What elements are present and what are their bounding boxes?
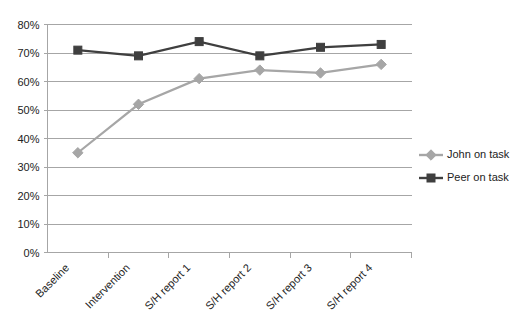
- gridlines: [44, 25, 412, 253]
- y-axis-tick-label: 70%: [17, 47, 39, 59]
- x-axis-tick-label: S/H report 2: [203, 261, 253, 311]
- x-axis-tick-label: Intervention: [83, 261, 132, 310]
- data-series-group: [73, 38, 387, 158]
- x-axis-tick-labels: BaselineInterventionS/H report 1S/H repo…: [33, 261, 375, 311]
- data-point-marker-diamond: [194, 73, 204, 83]
- y-axis-tick-label: 50%: [17, 104, 39, 116]
- data-point-marker-square: [317, 43, 325, 51]
- legend-label: John on task: [447, 148, 510, 160]
- chart-container: 0%10%20%30%40%50%60%70%80% BaselineInter…: [0, 0, 529, 325]
- data-point-marker-diamond: [255, 65, 265, 75]
- x-axis: [48, 25, 412, 258]
- data-point-marker-diamond: [315, 68, 325, 78]
- y-axis-tick-label: 30%: [17, 161, 39, 173]
- y-axis-tick-label: 40%: [17, 133, 39, 145]
- y-axis-tick-label: 10%: [17, 218, 39, 230]
- x-axis-tick-label: S/H report 4: [324, 261, 374, 311]
- y-axis-tick-label: 0%: [24, 247, 40, 259]
- data-point-marker-square: [74, 46, 82, 54]
- y-axis-tick-label: 60%: [17, 76, 39, 88]
- series-line: [78, 64, 381, 152]
- legend-entry[interactable]: John on task: [419, 148, 510, 160]
- data-point-marker-square: [135, 52, 143, 60]
- chart-legend: John on taskPeer on task: [419, 148, 510, 183]
- legend-label: Peer on task: [447, 171, 509, 183]
- y-axis-tick-labels: 0%10%20%30%40%50%60%70%80%: [17, 19, 39, 259]
- x-axis-tick-label: S/H report 3: [263, 261, 313, 311]
- y-axis-tick-label: 20%: [17, 190, 39, 202]
- data-point-marker-square: [377, 40, 385, 48]
- series-line: [78, 42, 381, 56]
- x-axis-tick-label: S/H report 1: [142, 261, 192, 311]
- data-point-marker-square: [195, 38, 203, 46]
- data-point-marker-square: [427, 174, 435, 182]
- x-axis-tick-label: Baseline: [33, 261, 71, 299]
- data-point-marker-diamond: [426, 150, 436, 160]
- series-peer-on-task: [74, 38, 385, 60]
- series-john-on-task: [73, 59, 387, 158]
- y-axis-tick-label: 80%: [17, 19, 39, 31]
- line-chart: 0%10%20%30%40%50%60%70%80% BaselineInter…: [0, 0, 529, 325]
- data-point-marker-square: [256, 52, 264, 60]
- legend-entry[interactable]: Peer on task: [419, 171, 509, 183]
- data-point-marker-diamond: [376, 59, 386, 69]
